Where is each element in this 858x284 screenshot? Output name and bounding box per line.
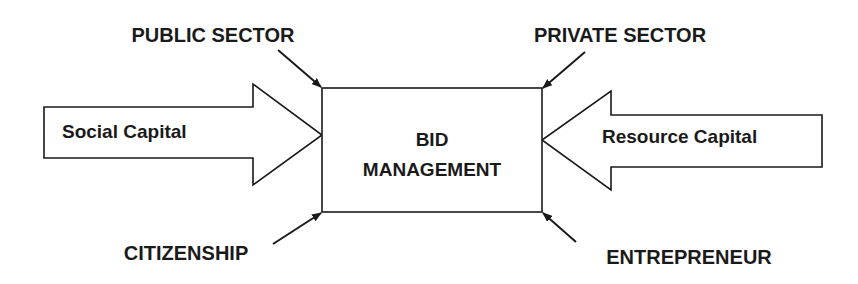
public-sector-label: PUBLIC SECTOR xyxy=(132,24,296,46)
citizenship-pointer-arrow-icon xyxy=(273,213,321,244)
private-sector-label: PRIVATE SECTOR xyxy=(534,24,707,46)
private-sector-pointer-arrow-icon xyxy=(543,52,585,88)
entrepreneur-label: ENTREPRENEUR xyxy=(606,246,772,268)
social-capital-label: Social Capital xyxy=(62,121,187,142)
entrepreneur-pointer-arrow-icon xyxy=(543,213,576,242)
bid-management-box: BID MANAGEMENT xyxy=(322,88,542,212)
public-sector-pointer-arrow-icon xyxy=(278,50,321,87)
citizenship-label: CITIZENSHIP xyxy=(124,242,248,264)
box-title-line2: MANAGEMENT xyxy=(363,159,502,180)
box-title-line1: BID xyxy=(416,129,449,150)
social-capital-arrow: Social Capital xyxy=(44,84,322,185)
resource-capital-arrow: Resource Capital xyxy=(542,91,822,190)
bid-management-diagram: Social Capital Resource Capital BID MANA… xyxy=(0,0,858,284)
resource-capital-label: Resource Capital xyxy=(602,126,757,147)
